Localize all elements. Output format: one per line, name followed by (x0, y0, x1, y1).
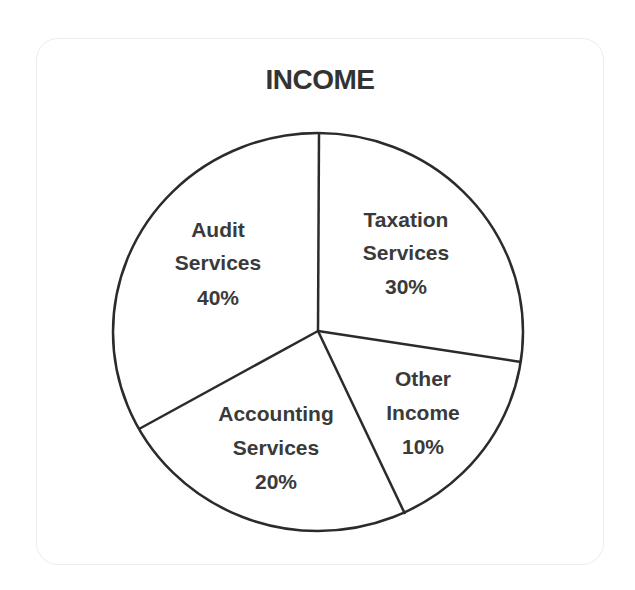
pie-chart: Taxation Services 30% Other Income 10% A… (0, 0, 635, 590)
slice-label-line2: Services (233, 436, 319, 459)
slice-percent: 20% (255, 470, 297, 493)
slice-label-line1: Accounting (218, 402, 334, 425)
slice-label-line2: Services (363, 241, 449, 264)
slice-label-line2: Income (386, 401, 460, 424)
slice-label-line1: Taxation (364, 208, 449, 231)
slice-label-line1: Other (395, 367, 451, 390)
slice-percent: 10% (402, 435, 444, 458)
slice-label-line2: Services (175, 251, 261, 274)
slice-percent: 40% (197, 286, 239, 309)
slice-label-line1: Audit (191, 218, 245, 241)
slice-divider-audit-taxation (318, 133, 319, 331)
slice-percent: 30% (385, 275, 427, 298)
